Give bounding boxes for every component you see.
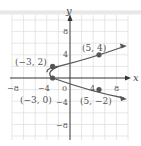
tick-x-neg4: −4: [38, 84, 50, 93]
tick-x-4: 4: [90, 84, 95, 93]
point-label-neg3-0: (−3, 0): [20, 95, 52, 105]
parabola-curve: [50, 47, 124, 99]
point-label-5-neg2: (5, −2): [80, 96, 112, 106]
point-label-neg3-2: (−3, 2): [15, 57, 47, 67]
tick-y-neg4: −4: [56, 98, 68, 107]
tick-y-8: 8: [63, 27, 68, 36]
tick-y-neg8: −8: [56, 121, 68, 130]
curve-arrow-lower-icon: [120, 96, 127, 101]
parabola-graph: y x −8 −4 0 4 8 8 4 −4 −8 (−3, 2) (−3, 0…: [0, 0, 141, 146]
axes: [10, 18, 128, 140]
point-5-neg2: [96, 87, 101, 92]
tick-x-0: 0: [62, 84, 67, 93]
point-neg3-0: [50, 75, 55, 80]
point-neg3-2: [50, 64, 55, 69]
tick-x-8: 8: [114, 84, 119, 93]
tick-y-4: 4: [63, 50, 68, 59]
y-axis-label: y: [65, 5, 72, 16]
curve-arrow-upper-icon: [120, 44, 127, 49]
x-axis-label: x: [133, 72, 139, 83]
point-label-5-4: (5, 4): [82, 43, 106, 53]
tick-x-neg8: −8: [7, 84, 19, 93]
